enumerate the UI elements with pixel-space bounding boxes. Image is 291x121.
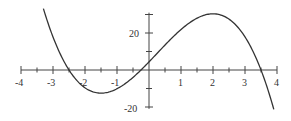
x-label-3: 3 (242, 77, 247, 88)
y-label-neg20: -20 (124, 103, 137, 114)
function-curve (43, 9, 273, 110)
x-label-1: 1 (178, 77, 183, 88)
x-label-neg4: -4 (15, 77, 23, 88)
x-label-4: 4 (274, 77, 279, 88)
x-label-neg1: -1 (111, 77, 119, 88)
y-label-20: 20 (129, 28, 139, 39)
axes (21, 13, 277, 109)
cubic-function-graph: -4 -3 -2 -1 1 2 3 4 20 -20 (0, 0, 291, 121)
x-label-2: 2 (210, 77, 215, 88)
x-label-neg3: -3 (47, 77, 55, 88)
